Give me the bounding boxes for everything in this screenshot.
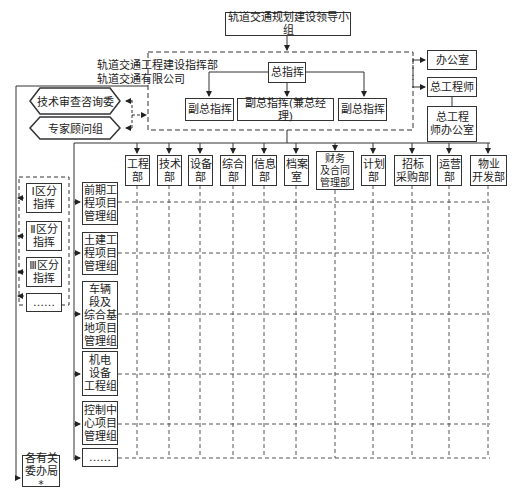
group-control-center: 控制中 心项目 管理组 — [82, 401, 118, 445]
dept-engineering: 工程 部 — [125, 155, 150, 186]
dept-general: 综合 部 — [220, 155, 246, 186]
office-box: 办公室 — [427, 50, 477, 70]
district-2-command: Ⅱ区分 指挥 — [26, 221, 62, 251]
district-1-command: Ⅰ区分 指挥 — [26, 183, 62, 213]
dept-planning: 计划 部 — [361, 155, 386, 186]
tech-review-committee: 技术审查咨询委 — [30, 88, 120, 114]
district-3-command: Ⅲ区分 指挥 — [26, 257, 62, 287]
expert-advisory-group: 专家顾问组 — [30, 117, 120, 139]
dept-archives: 档案 室 — [284, 155, 309, 186]
dept-finance-contract: 财务 及合同 管理部 — [316, 151, 354, 190]
group-preliminary: 前期工 程项目 管理组 — [82, 182, 118, 225]
dept-property-dev: 物业 开发部 — [470, 155, 507, 186]
dept-information: 信息 部 — [252, 155, 277, 186]
group-depot: 车辆 段及 综合基 地项目 管理组 — [82, 281, 118, 349]
chief-engineer-box: 总工程师 — [427, 77, 477, 97]
dept-technology: 技术 部 — [157, 155, 182, 186]
deputy-commander-box-1: 副总指挥 — [185, 98, 234, 121]
chief-engineer-office-box: 总工程 师办公室 — [427, 106, 477, 142]
group-more: …… — [82, 448, 118, 467]
hq-label: 轨道交通工程建设指挥部 轨道交通有限公司 — [97, 59, 218, 87]
group-civil: 土建工 程项目 管理组 — [82, 232, 118, 275]
connector-lines — [0, 0, 520, 503]
dept-procurement: 招标 采购部 — [394, 155, 431, 186]
deputy-commander-gm-box: 副总指挥(兼总经理) — [237, 98, 334, 121]
dept-equipment: 设备 部 — [188, 155, 213, 186]
commander-box: 总指挥 — [268, 62, 306, 83]
dept-operations: 运营 部 — [437, 155, 462, 186]
district-more: …… — [26, 293, 62, 312]
deputy-commander-box-3: 副总指挥 — [338, 98, 387, 121]
leadership-group-box: 轨道交通规划建设领导小组 — [225, 12, 351, 36]
group-electromechanical: 机电 设备 工程组 — [82, 351, 118, 396]
related-bureaus-box: 各有关 委办局* — [22, 455, 60, 487]
